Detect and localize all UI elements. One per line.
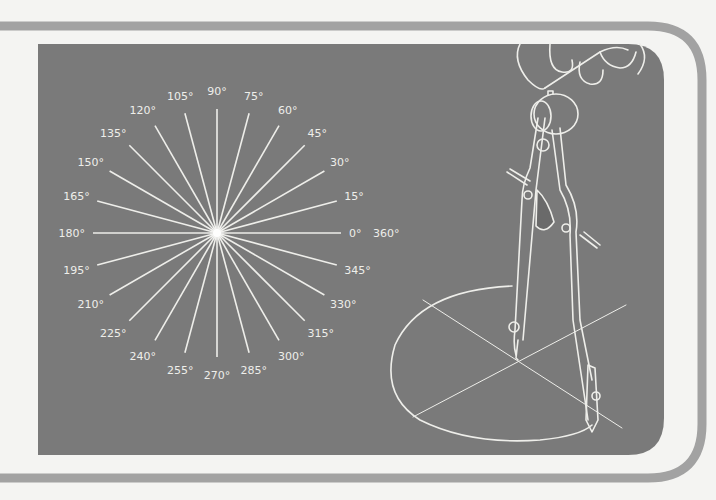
angle-label-165: 165° xyxy=(63,190,90,203)
angle-label-315: 315° xyxy=(307,327,334,340)
angle-label-270: 270° xyxy=(204,369,231,382)
angle-label-345: 345° xyxy=(344,264,371,277)
angle-label-15: 15° xyxy=(344,190,364,203)
angle-label-240: 240° xyxy=(130,350,157,363)
illustration-frame: 0°360°15°30°45°60°75°90°105°120°135°150°… xyxy=(0,0,716,500)
angle-label-150: 150° xyxy=(78,156,105,169)
compass-head xyxy=(534,94,578,134)
angle-label-360: 360° xyxy=(373,227,400,240)
angle-label-90: 90° xyxy=(207,85,227,98)
angle-label-0: 0° xyxy=(349,227,362,240)
angle-label-60: 60° xyxy=(278,104,298,117)
angle-label-30: 30° xyxy=(330,156,350,169)
angle-label-225: 225° xyxy=(100,327,127,340)
angle-label-195: 195° xyxy=(63,264,90,277)
angle-label-135: 135° xyxy=(100,127,127,140)
angle-label-180: 180° xyxy=(59,227,86,240)
angle-label-105: 105° xyxy=(167,90,194,103)
angle-label-255: 255° xyxy=(167,364,194,377)
angle-label-75: 75° xyxy=(244,90,264,103)
angle-label-120: 120° xyxy=(130,104,157,117)
angle-label-330: 330° xyxy=(330,298,357,311)
angle-label-210: 210° xyxy=(78,298,105,311)
illustration-canvas: 0°360°15°30°45°60°75°90°105°120°135°150°… xyxy=(0,0,716,500)
angle-label-45: 45° xyxy=(307,127,327,140)
angle-label-285: 285° xyxy=(241,364,268,377)
angle-label-300: 300° xyxy=(278,350,305,363)
